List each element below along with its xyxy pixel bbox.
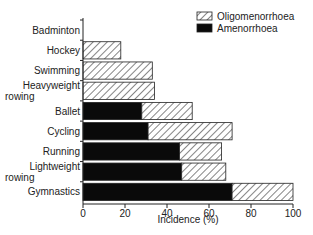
x-tick-label: 20 — [119, 208, 131, 219]
bar-oligomenorrhoea-heavyweight-rowing — [83, 82, 154, 99]
bar-amenorrhoea-lightweight-rowing — [83, 163, 182, 180]
bar-amenorrhoea-ballet — [83, 102, 142, 119]
bar-oligomenorrhoea-gymnastics — [232, 183, 293, 200]
legend-label: Amenorrhoea — [217, 23, 278, 34]
bar-oligomenorrhoea-cycling — [148, 123, 232, 140]
category-label: Lightweightrowing — [5, 161, 80, 183]
category-label: Hockey — [47, 45, 80, 56]
stacked-bar-chart: BadmintonHockeySwimmingHeavyweightrowing… — [0, 0, 313, 235]
category-label: Ballet — [55, 106, 80, 117]
bar-oligomenorrhoea-lightweight-rowing — [182, 163, 226, 180]
legend-label: Oligomenorrhoea — [217, 11, 295, 22]
bar-amenorrhoea-running — [83, 143, 180, 160]
category-label: Cycling — [47, 126, 80, 137]
category-label: Gymnastics — [28, 186, 80, 197]
category-label: Badminton — [32, 25, 80, 36]
bar-amenorrhoea-gymnastics — [83, 183, 232, 200]
bar-oligomenorrhoea-ballet — [142, 102, 192, 119]
legend: OligomenorrhoeaAmenorrhoea — [197, 11, 295, 34]
x-tick-label: 80 — [245, 208, 257, 219]
bar-amenorrhoea-cycling — [83, 123, 148, 140]
category-label: Swimming — [34, 65, 80, 76]
bars-group — [83, 42, 293, 201]
x-tick-label: 0 — [80, 208, 86, 219]
category-label: Heavyweightrowing — [5, 80, 80, 102]
bar-oligomenorrhoea-swimming — [83, 62, 152, 79]
category-labels: BadmintonHockeySwimmingHeavyweightrowing… — [5, 25, 80, 198]
legend-swatch-oligomenorrhoea — [197, 12, 212, 20]
legend-swatch-amenorrhoea — [197, 24, 212, 32]
bar-oligomenorrhoea-hockey — [83, 42, 121, 59]
bar-oligomenorrhoea-running — [180, 143, 222, 160]
x-tick-label: 100 — [285, 208, 302, 219]
x-axis-label: Incidence (%) — [157, 214, 218, 225]
category-label: Running — [43, 146, 80, 157]
